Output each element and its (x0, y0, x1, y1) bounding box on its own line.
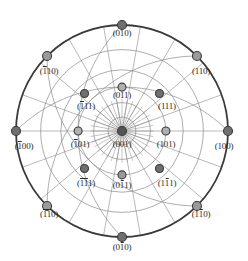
miller-index-text: 10) (47, 66, 58, 76)
miller-index-bar: 1 (120, 180, 124, 190)
miller-index-bar: 1 (43, 66, 47, 76)
miller-index-text: 01) (78, 139, 89, 149)
pole-label--111: (111) (77, 101, 95, 111)
pole-label--100: (100) (15, 141, 34, 151)
miller-index-text: 0) (124, 28, 131, 38)
pole-label-111: (111) (158, 101, 176, 111)
pole-label--110: (110) (40, 66, 59, 76)
pole-label--1-10: (110) (40, 209, 58, 219)
miller-index-bar: 1 (18, 141, 22, 151)
pole-marker--100 (12, 127, 21, 136)
pole-label-0-11: (011) (113, 180, 132, 190)
miller-index-text: (110) (192, 66, 210, 76)
miller-index-bar: 1 (199, 209, 203, 219)
pole-marker-0-11 (118, 171, 126, 179)
pole-label-0-10: (010) (113, 242, 132, 252)
miller-index-text: (111) (158, 101, 176, 111)
miller-index-bar: 1 (165, 178, 169, 188)
pole-marker-111 (155, 90, 163, 98)
miller-index-text: 1) (88, 178, 95, 188)
miller-index-text: 1) (169, 178, 176, 188)
miller-index-text: 0) (124, 242, 131, 252)
miller-index-bar: 11 (80, 178, 88, 188)
pole-label-1-11: (111) (158, 178, 177, 188)
miller-index-text: (0 (113, 242, 120, 252)
pole-marker-0-10 (118, 233, 127, 242)
pole-marker--1-11 (81, 164, 89, 172)
miller-index-text: (1 (158, 178, 165, 188)
pole-label-001: (001) (113, 139, 132, 149)
miller-index-text: (011) (113, 90, 131, 100)
pole-label-010: (010) (113, 28, 132, 38)
pole-label-1-10: (110) (192, 209, 211, 219)
miller-index-text: (001) (113, 139, 132, 149)
miller-index-text: 1) (124, 180, 131, 190)
miller-index-bar: 1 (74, 139, 78, 149)
pole-marker-110 (192, 52, 201, 61)
pole-label-011: (011) (113, 90, 131, 100)
pole-label--101: (101) (71, 139, 90, 149)
miller-index-text: 0) (203, 209, 210, 219)
miller-index-text: (101) (157, 139, 176, 149)
miller-index-text: 0) (51, 209, 58, 219)
pole-marker-100 (224, 127, 233, 136)
pole-label-101: (101) (157, 139, 176, 149)
miller-index-bar: 1 (80, 101, 84, 111)
pole-marker--110 (43, 52, 52, 61)
pole-label--1-11: (111) (77, 178, 95, 188)
miller-index-bar: 1 (120, 242, 124, 252)
pole-marker-1-11 (155, 164, 163, 172)
pole-marker--111 (81, 90, 89, 98)
miller-index-text: 00) (22, 141, 33, 151)
stereographic-projection-figure: (010)(010)(100)(100)(110)(110)(110)(110)… (0, 0, 248, 261)
pole-marker-101 (162, 127, 170, 135)
miller-index-text: 11) (84, 101, 95, 111)
miller-index-text: (1 (192, 209, 199, 219)
pole-label-110: (110) (192, 66, 210, 76)
miller-index-bar: 11 (43, 209, 51, 219)
pole-marker-001 (118, 127, 127, 136)
wulff-net-canvas (0, 0, 248, 261)
miller-index-text: (100) (215, 141, 234, 151)
pole-label-100: (100) (215, 141, 234, 151)
miller-index-text: (0 (113, 180, 120, 190)
pole-marker--101 (74, 127, 82, 135)
